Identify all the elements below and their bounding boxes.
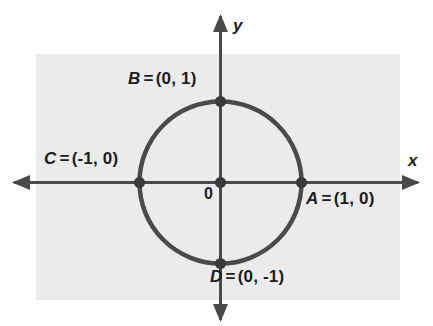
y-axis-label: y: [233, 17, 242, 34]
point-label-b: B=(0, 1): [128, 70, 197, 87]
point-label-b-coord: (0, 1): [156, 69, 197, 88]
point-label-a: A=(1, 0): [306, 190, 375, 207]
point-label-b-name: B: [128, 69, 141, 88]
x-axis-arrow-left: [12, 175, 30, 190]
point-label-a-name: A: [306, 189, 319, 208]
x-axis-arrow-right: [402, 175, 420, 190]
y-axis-arrow-up: [213, 14, 228, 32]
point-label-d-equals: =: [223, 267, 237, 286]
point-marker-c: [134, 177, 145, 188]
origin-label: 0: [204, 186, 213, 202]
point-label-d-name: D: [210, 267, 223, 286]
point-label-b-equals: =: [141, 69, 155, 88]
y-axis-arrow-down: [213, 304, 228, 322]
point-label-c: C=(-1, 0): [44, 150, 118, 167]
point-marker-b: [215, 96, 226, 107]
point-label-d-coord: (0, -1): [238, 267, 285, 286]
point-label-a-equals: =: [319, 189, 333, 208]
point-label-c-equals: =: [57, 149, 71, 168]
point-label-d: D=(0, -1): [210, 268, 284, 285]
point-marker-a: [296, 177, 307, 188]
unit-circle-figure: B=(0, 1) C=(-1, 0) A=(1, 0) D=(0, -1) y …: [0, 0, 433, 326]
point-marker-origin: [215, 177, 226, 188]
point-label-a-coord: (1, 0): [334, 189, 375, 208]
point-label-c-name: C: [44, 149, 57, 168]
point-label-c-coord: (-1, 0): [72, 149, 119, 168]
x-axis-label: x: [408, 152, 417, 169]
